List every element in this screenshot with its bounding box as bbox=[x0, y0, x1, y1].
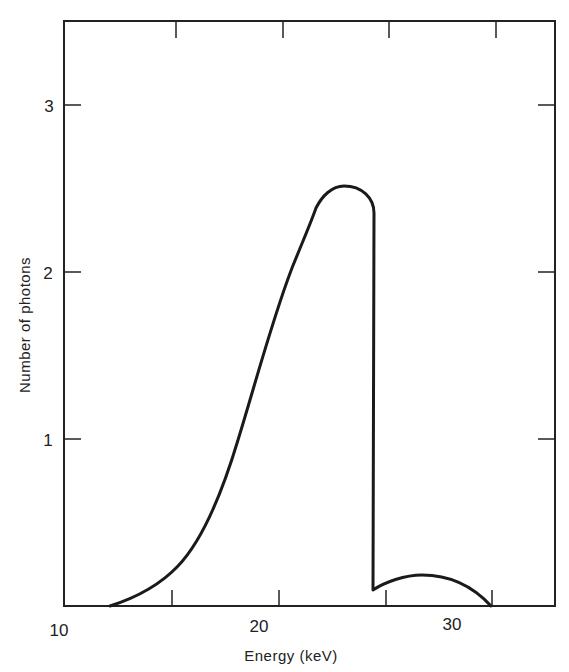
y-tick-label-3: 3 bbox=[44, 97, 53, 116]
x-axis-title: Energy (keV) bbox=[244, 647, 338, 664]
photon-spectrum-chart: 10 20 30 3 2 1 Energy (keV) Number of ph… bbox=[0, 0, 569, 672]
x-tick-label-10: 10 bbox=[50, 621, 69, 640]
x-axis-ticks-bottom bbox=[172, 590, 492, 606]
x-axis-ticks-top bbox=[176, 21, 496, 38]
spectrum-curve bbox=[110, 186, 491, 606]
y-axis-ticks-left bbox=[64, 105, 81, 439]
y-axis-ticks-right bbox=[538, 105, 555, 439]
y-axis-title: Number of photons bbox=[16, 257, 33, 393]
x-tick-label-30: 30 bbox=[443, 615, 462, 634]
x-tick-label-20: 20 bbox=[250, 617, 269, 636]
y-tick-label-1: 1 bbox=[43, 431, 52, 450]
plot-frame bbox=[64, 21, 555, 606]
y-tick-label-2: 2 bbox=[43, 264, 52, 283]
